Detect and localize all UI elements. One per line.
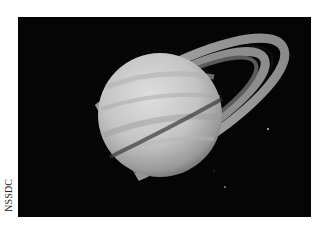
saturn-illustration <box>18 17 311 217</box>
planet-body <box>98 53 222 177</box>
photo-credit: NSSDC <box>3 172 15 212</box>
moon-dot <box>267 128 269 130</box>
saturn-photo <box>18 17 311 217</box>
moon-dot <box>224 186 226 188</box>
moon-dot <box>213 170 214 171</box>
